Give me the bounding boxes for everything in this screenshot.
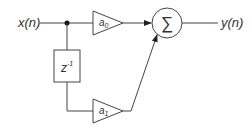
- sum-symbol: ∑: [161, 14, 173, 33]
- fir-filter-diagram: x(n) a0 ∑ y(n) z-1 a1: [0, 0, 252, 133]
- input-label: x(n): [17, 15, 40, 30]
- a1-to-sum-arrow: [123, 35, 157, 111]
- output-label: y(n): [220, 15, 243, 30]
- delay-label: z-1: [60, 60, 73, 75]
